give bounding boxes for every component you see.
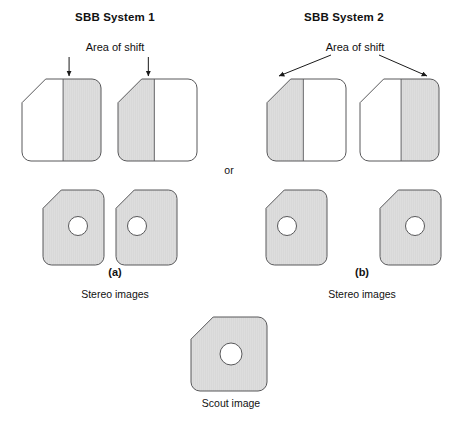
system-1-stereo-images-caption: Stereo images xyxy=(81,289,149,301)
sbb1-top-left-image-shift-region xyxy=(63,77,103,163)
sbb2-stereo-left-image-marker-circle xyxy=(278,217,297,236)
system-2-shift-arrow-2 xyxy=(379,55,427,76)
sbb1-stereo-right-image-marker-circle xyxy=(128,217,147,236)
sbb1-stereo-left-image-marker-circle xyxy=(69,217,88,236)
system-2-title: SBB System 2 xyxy=(304,11,384,24)
sbb2-top-right-image-shift-region xyxy=(401,77,441,163)
scout-image-caption: Scout image xyxy=(202,398,260,410)
panel-letter-b: (b) xyxy=(355,266,369,278)
system-1-area-of-shift-label: Area of shift xyxy=(86,41,145,53)
panel-letter-a: (a) xyxy=(108,266,121,278)
scout-image-marker-circle xyxy=(220,343,242,365)
or-connector-label: or xyxy=(224,165,233,177)
sbb2-stereo-right-image-marker-circle xyxy=(406,217,425,236)
sbb2-top-left-image-shift-region xyxy=(265,77,303,163)
sbb1-top-right-image-shift-region xyxy=(116,77,154,163)
system-2-stereo-images-caption: Stereo images xyxy=(328,289,396,301)
diagram-canvas xyxy=(0,0,459,436)
system-2-shift-arrow-1 xyxy=(279,55,331,76)
figure-root: SBB System 1 Area of shift (a) Stereo im… xyxy=(0,0,459,436)
system-1-title: SBB System 1 xyxy=(75,11,155,24)
system-2-area-of-shift-label: Area of shift xyxy=(326,41,385,53)
